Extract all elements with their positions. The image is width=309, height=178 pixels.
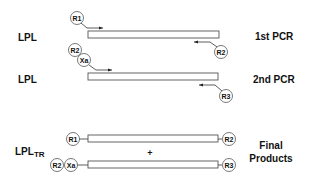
svg-text:R2: R2 (53, 162, 62, 169)
primer-xa: Xa (78, 54, 91, 67)
first-pcr-row: LPL R1 R2 1st PCR (18, 12, 294, 59)
final-left-label: LPLTR (15, 146, 45, 159)
svg-text:R3: R3 (222, 93, 231, 100)
reverse-arrow (194, 42, 217, 47)
product-2: R2 Xa R3 (51, 159, 236, 172)
second-pcr-row: LPL R2 Xa R3 2nd PCR (18, 44, 295, 103)
svg-text:Xa: Xa (67, 162, 76, 169)
svg-text:Xa: Xa (80, 57, 89, 64)
product-1: R1 R2 (67, 133, 236, 146)
product-bar (88, 161, 218, 168)
svg-text:R1: R1 (73, 15, 82, 22)
second-pcr-right-label: 2nd PCR (253, 74, 295, 85)
svg-text:R2: R2 (217, 49, 226, 56)
svg-text:R2: R2 (225, 136, 234, 143)
svg-text:R3: R3 (225, 162, 234, 169)
svg-text:R2: R2 (71, 47, 80, 54)
plus-sign: + (147, 148, 152, 158)
first-pcr-right-label: 1st PCR (255, 31, 294, 42)
final-products-row: LPLTR R1 R2 + R2 Xa R3 Final Products (15, 133, 293, 172)
template-bar (88, 73, 218, 80)
primer-r3: R3 (220, 90, 233, 103)
final-right-label-line2: Products (249, 153, 293, 164)
product-bar (88, 135, 218, 142)
svg-text:R1: R1 (69, 136, 78, 143)
primer-r2: R2 (69, 44, 82, 57)
primer-r2: R2 (215, 46, 228, 59)
first-pcr-left-label: LPL (18, 32, 37, 43)
forward-arrow (81, 23, 103, 28)
reverse-arrow (199, 85, 222, 91)
pcr-diagram: LPL R1 R2 1st PCR LPL R2 Xa R3 2n (0, 0, 309, 178)
template-bar (88, 31, 219, 38)
forward-arrow (89, 65, 112, 70)
primer-r1: R1 (71, 12, 84, 25)
second-pcr-left-label: LPL (18, 74, 37, 85)
final-right-label-line1: Final (259, 140, 283, 151)
